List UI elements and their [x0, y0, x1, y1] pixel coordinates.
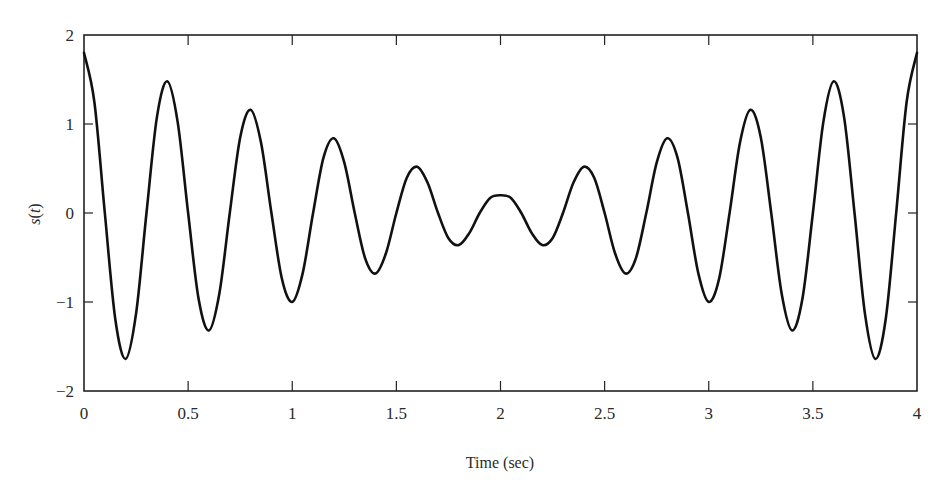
- y-axis-ticks: −2−1012: [56, 26, 917, 401]
- y-label-close: ): [26, 203, 44, 208]
- plot-border: [84, 35, 917, 391]
- x-tick-label: 2: [496, 404, 505, 423]
- x-tick-label: 1.5: [386, 404, 407, 423]
- x-tick-label: 3: [705, 404, 714, 423]
- signal-chart: 00.511.522.533.54 −2−1012 Time (sec) s(t…: [0, 0, 946, 485]
- x-tick-label: 0.5: [178, 404, 199, 423]
- signal-line: [84, 53, 917, 359]
- x-tick-label: 0: [80, 404, 89, 423]
- y-tick-label: 0: [66, 204, 75, 223]
- y-tick-label: −2: [56, 382, 74, 401]
- y-axis-label: s(t): [26, 203, 44, 224]
- y-tick-label: −1: [56, 293, 74, 312]
- x-tick-label: 4: [913, 404, 922, 423]
- x-tick-label: 3.5: [802, 404, 823, 423]
- y-tick-label: 2: [66, 26, 75, 45]
- x-tick-label: 1: [288, 404, 297, 423]
- x-axis-label: Time (sec): [466, 454, 534, 472]
- y-tick-label: 1: [66, 115, 75, 134]
- plot-frame: [84, 35, 917, 391]
- x-tick-label: 2.5: [594, 404, 615, 423]
- x-axis-ticks: 00.511.522.533.54: [80, 35, 922, 423]
